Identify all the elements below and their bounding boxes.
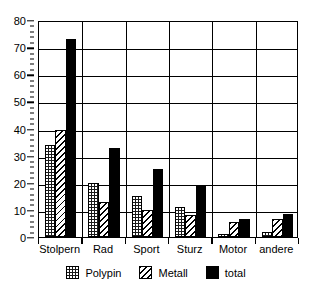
y-tick-minor xyxy=(30,69,34,70)
y-tick-label: 10 xyxy=(14,205,26,216)
y-tick-minor xyxy=(30,107,34,108)
y-tick-minor xyxy=(30,26,34,27)
y-tick-minor xyxy=(30,91,34,92)
y-tick-minor xyxy=(30,58,34,59)
x-axis-label-rad: Rad xyxy=(93,243,113,255)
y-tick-label: 50 xyxy=(14,97,26,108)
bar-sturz-metall xyxy=(185,215,196,237)
y-tick-label: 60 xyxy=(14,70,26,81)
bar-sturz-polypin xyxy=(175,207,186,237)
bar-motor-polypin xyxy=(218,234,229,237)
y-tick-major xyxy=(27,47,34,48)
y-tick-minor xyxy=(30,194,34,195)
y-tick-minor xyxy=(30,227,34,228)
bar-sport-total xyxy=(153,169,164,237)
y-tick-minor xyxy=(30,86,34,87)
gridline-y-50 xyxy=(39,103,297,104)
bar-sport-polypin xyxy=(132,196,143,237)
group-separator xyxy=(212,22,213,237)
legend-item-polypin: Polypin xyxy=(66,266,121,279)
bar-rad-total xyxy=(109,148,120,238)
y-tick-major xyxy=(27,183,34,184)
y-tick-minor xyxy=(30,205,34,206)
y-tick-major xyxy=(27,102,34,103)
bar-stolpern-metall xyxy=(55,130,66,237)
y-tick-label: 70 xyxy=(14,43,26,54)
y-tick-minor xyxy=(30,140,34,141)
bar-rad-metall xyxy=(99,202,110,237)
gridline-y-10 xyxy=(39,212,297,213)
x-axis-label-sport: Sport xyxy=(133,243,159,255)
y-tick-major xyxy=(27,75,34,76)
y-tick-minor xyxy=(30,200,34,201)
gridline-y-20 xyxy=(39,185,297,186)
x-axis-label-motor: Motor xyxy=(219,243,247,255)
bar-motor-metall xyxy=(229,222,240,237)
y-tick-minor xyxy=(30,216,34,217)
plot-area xyxy=(38,21,298,238)
x-tick xyxy=(255,238,256,244)
y-tick-major xyxy=(27,156,34,157)
y-tick-major xyxy=(27,129,34,130)
legend-label-total: total xyxy=(225,267,246,279)
legend-label-metall: Metall xyxy=(158,267,187,279)
bar-stolpern-polypin xyxy=(45,145,56,237)
y-tick-minor xyxy=(30,124,34,125)
group-separator xyxy=(256,22,257,237)
legend-item-total: total xyxy=(206,266,246,279)
gridline-y-30 xyxy=(39,158,297,159)
bar-andere-total xyxy=(283,214,294,237)
chart-legend: PolypinMetalltotal xyxy=(0,266,312,279)
x-axis-label-andere: andere xyxy=(259,243,293,255)
y-tick-label: 80 xyxy=(14,16,26,27)
group-separator xyxy=(82,22,83,237)
x-tick xyxy=(298,238,299,244)
bar-sturz-total xyxy=(196,185,207,237)
y-tick-label: 30 xyxy=(14,151,26,162)
y-tick-minor xyxy=(30,37,34,38)
bar-chart: 01020304050607080 StolpernRadSportSturzM… xyxy=(0,0,312,299)
y-tick-minor xyxy=(30,189,34,190)
y-tick-minor xyxy=(30,151,34,152)
legend-item-metall: Metall xyxy=(139,266,187,279)
y-tick-minor xyxy=(30,172,34,173)
y-tick-major xyxy=(27,210,34,211)
bar-stolpern-total xyxy=(66,39,77,237)
bar-andere-metall xyxy=(272,219,283,237)
bar-andere-polypin xyxy=(262,232,273,237)
legend-swatch-polypin xyxy=(66,266,79,279)
bar-rad-polypin xyxy=(88,183,99,237)
gridline-y-70 xyxy=(39,49,297,50)
x-tick xyxy=(125,238,126,244)
x-tick xyxy=(211,238,212,244)
y-tick-label: 20 xyxy=(14,178,26,189)
gridline-y-60 xyxy=(39,76,297,77)
x-tick xyxy=(81,238,82,244)
y-tick-minor xyxy=(30,64,34,65)
legend-swatch-metall xyxy=(139,266,152,279)
group-separator xyxy=(126,22,127,237)
y-tick-minor xyxy=(30,167,34,168)
y-tick-minor xyxy=(30,232,34,233)
y-tick-label: 40 xyxy=(14,124,26,135)
x-axis-label-stolpern: Stolpern xyxy=(39,243,80,255)
group-separator xyxy=(169,22,170,237)
x-axis-label-sturz: Sturz xyxy=(177,243,203,255)
y-tick-minor xyxy=(30,178,34,179)
legend-swatch-total xyxy=(206,266,219,279)
legend-label-polypin: Polypin xyxy=(85,267,121,279)
gridline-y-40 xyxy=(39,131,297,132)
bar-motor-total xyxy=(239,219,250,237)
y-tick-minor xyxy=(30,134,34,135)
y-tick-major xyxy=(27,20,34,21)
y-tick-minor xyxy=(30,113,34,114)
y-tick-minor xyxy=(30,31,34,32)
y-tick-minor xyxy=(30,53,34,54)
bar-sport-metall xyxy=(142,210,153,237)
y-axis: 01020304050607080 xyxy=(0,0,38,299)
y-tick-minor xyxy=(30,96,34,97)
y-tick-major xyxy=(27,237,34,238)
y-tick-minor xyxy=(30,118,34,119)
y-tick-minor xyxy=(30,162,34,163)
y-tick-minor xyxy=(30,221,34,222)
